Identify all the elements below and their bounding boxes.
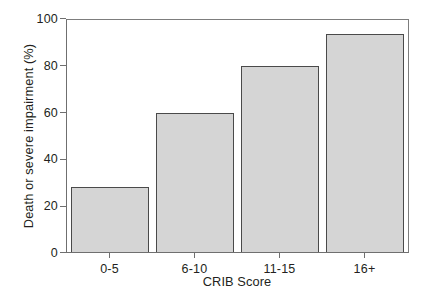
bar-slot (237, 20, 322, 252)
x-tick-mark (364, 253, 365, 258)
bar-slot (152, 20, 237, 252)
bar (326, 34, 404, 252)
x-tick-mark (194, 253, 195, 258)
y-tick-mark (60, 112, 66, 113)
y-tick-label: 0 (51, 246, 58, 260)
bar-chart-figure: 020406080100 0-56-1011-1516+ Death or se… (0, 0, 431, 295)
bar (241, 66, 319, 252)
y-tick-label: 80 (44, 59, 58, 73)
y-tick-mark (60, 252, 66, 253)
y-axis-title: Death or severe impairment (%) (20, 19, 38, 253)
bar (156, 113, 234, 252)
y-tick-mark (60, 159, 66, 160)
y-tick-mark (60, 18, 66, 19)
y-tick-mark (60, 65, 66, 66)
bar-slot (322, 20, 407, 252)
bar (71, 187, 149, 252)
y-tick-mark (60, 206, 66, 207)
x-axis-title: CRIB Score (67, 274, 407, 289)
y-tick-label: 40 (44, 152, 58, 166)
y-tick-label: 60 (44, 106, 58, 120)
x-tick-mark (279, 253, 280, 258)
bar-slot (67, 20, 152, 252)
x-tick-mark (109, 253, 110, 258)
bars-container (67, 20, 407, 252)
y-tick-label: 100 (37, 12, 58, 26)
y-tick-label: 20 (44, 199, 58, 213)
